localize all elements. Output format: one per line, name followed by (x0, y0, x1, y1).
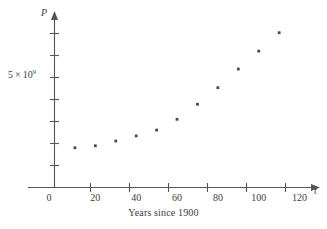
data-point (237, 68, 240, 71)
y-tick-exponent: 9 (33, 68, 36, 75)
data-point (257, 50, 260, 53)
data-point (196, 103, 199, 106)
x-tick-label-100: 100 (251, 192, 266, 203)
data-point (74, 146, 77, 149)
data-point (135, 135, 138, 138)
data-point (176, 118, 179, 121)
y-axis-arrow-icon (51, 11, 58, 20)
x-tick-label-40: 40 (131, 192, 141, 203)
data-point (155, 129, 158, 132)
data-point-series (74, 31, 281, 149)
scatter-plot-figure: P t 5 × 109 0 20406080100120 Years since… (0, 0, 327, 229)
x-tick-label-60: 60 (172, 192, 182, 203)
data-point (94, 144, 97, 147)
multiplication-sign-icon: × (15, 69, 21, 80)
y-axis-variable-label: P (41, 8, 47, 18)
x-tick-label-80: 80 (213, 192, 223, 203)
y-tick-label-5e9: 5 × 109 (8, 70, 36, 80)
x-axis-variable-label: t (314, 186, 317, 196)
x-axis-caption: Years since 1900 (128, 208, 198, 218)
x-tick-label-20: 20 (90, 192, 100, 203)
data-point (278, 31, 281, 34)
data-point (216, 86, 219, 89)
y-tick-mantissa: 5 (8, 69, 13, 80)
data-point (114, 140, 117, 143)
origin-tick-label: 0 (47, 192, 52, 203)
x-tick-label-120: 120 (292, 192, 307, 203)
y-tick-base: 10 (23, 69, 33, 80)
